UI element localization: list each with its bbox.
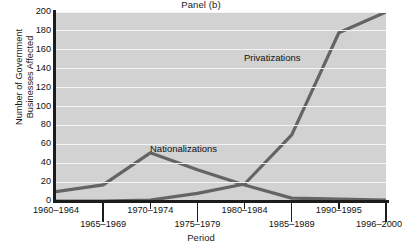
- gridline: [56, 182, 386, 183]
- x-tick-label: 1965–1969: [80, 219, 126, 229]
- gridline: [56, 87, 386, 88]
- gridline: [56, 30, 386, 31]
- gridline: [56, 68, 386, 69]
- x-axis-title: Period: [0, 232, 402, 243]
- x-tick-label: 1985–1989: [269, 219, 315, 229]
- y-tick-label: 100: [3, 101, 51, 111]
- y-axis-line: [53, 10, 56, 203]
- x-tick-label: 1975–1979: [174, 219, 220, 229]
- y-tick-label: 120: [3, 82, 51, 92]
- gridline: [56, 144, 386, 145]
- gridline: [56, 49, 386, 50]
- line-nationalizations: [56, 153, 386, 200]
- y-tick-label: 60: [3, 138, 51, 148]
- gridline: [56, 106, 386, 107]
- y-tick-label: 200: [3, 6, 51, 16]
- gridline: [56, 12, 386, 13]
- x-tick-label: 1996–2000: [356, 219, 402, 229]
- y-tick-label: 160: [3, 44, 51, 54]
- series-annotation-privatizations: Privatizations: [244, 52, 301, 63]
- plot-area: [56, 12, 386, 201]
- y-tick-label: 40: [3, 157, 51, 167]
- gridline: [56, 125, 386, 126]
- gridline: [56, 163, 386, 164]
- x-tick-label: 1970–1974: [127, 205, 173, 215]
- chart-figure: Panel (b) Number of Government Businesse…: [0, 0, 402, 247]
- y-tick-label: 0: [3, 195, 51, 205]
- x-tick-label: 1980–1984: [222, 205, 268, 215]
- y-tick-label: 180: [3, 25, 51, 35]
- chart-title: Panel (b): [0, 0, 402, 10]
- x-tick-label: 1960–1964: [33, 205, 79, 215]
- y-tick-label: 140: [3, 63, 51, 73]
- series-annotation-nationalizations: Nationalizations: [150, 143, 217, 154]
- y-tick-label: 20: [3, 176, 51, 186]
- y-tick-label: 80: [3, 119, 51, 129]
- x-tick-label: 1990–1995: [316, 205, 362, 215]
